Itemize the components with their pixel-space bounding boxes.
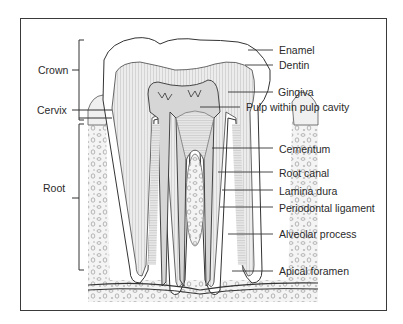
label-gingiva: Gingiva	[278, 86, 314, 98]
root-bracket	[79, 124, 84, 270]
label-alveolar-process: Alveolar process	[279, 228, 357, 240]
label-apical-foramen: Apical foramen	[279, 265, 349, 277]
label-cervix: Cervix	[37, 104, 67, 116]
label-crown: Crown	[38, 64, 68, 76]
label-dentin: Dentin	[279, 59, 309, 71]
label-periodontal-ligament: Periodontal ligament	[279, 202, 375, 214]
crown-bracket	[79, 40, 84, 120]
label-pulp: Pulp within pulp cavity	[246, 101, 349, 113]
label-enamel: Enamel	[279, 44, 315, 56]
label-cementum: Cementum	[279, 143, 330, 155]
label-root: Root	[43, 182, 65, 194]
label-lamina-dura: Lamina dura	[279, 185, 337, 197]
label-root-canal: Root canal	[279, 167, 329, 179]
